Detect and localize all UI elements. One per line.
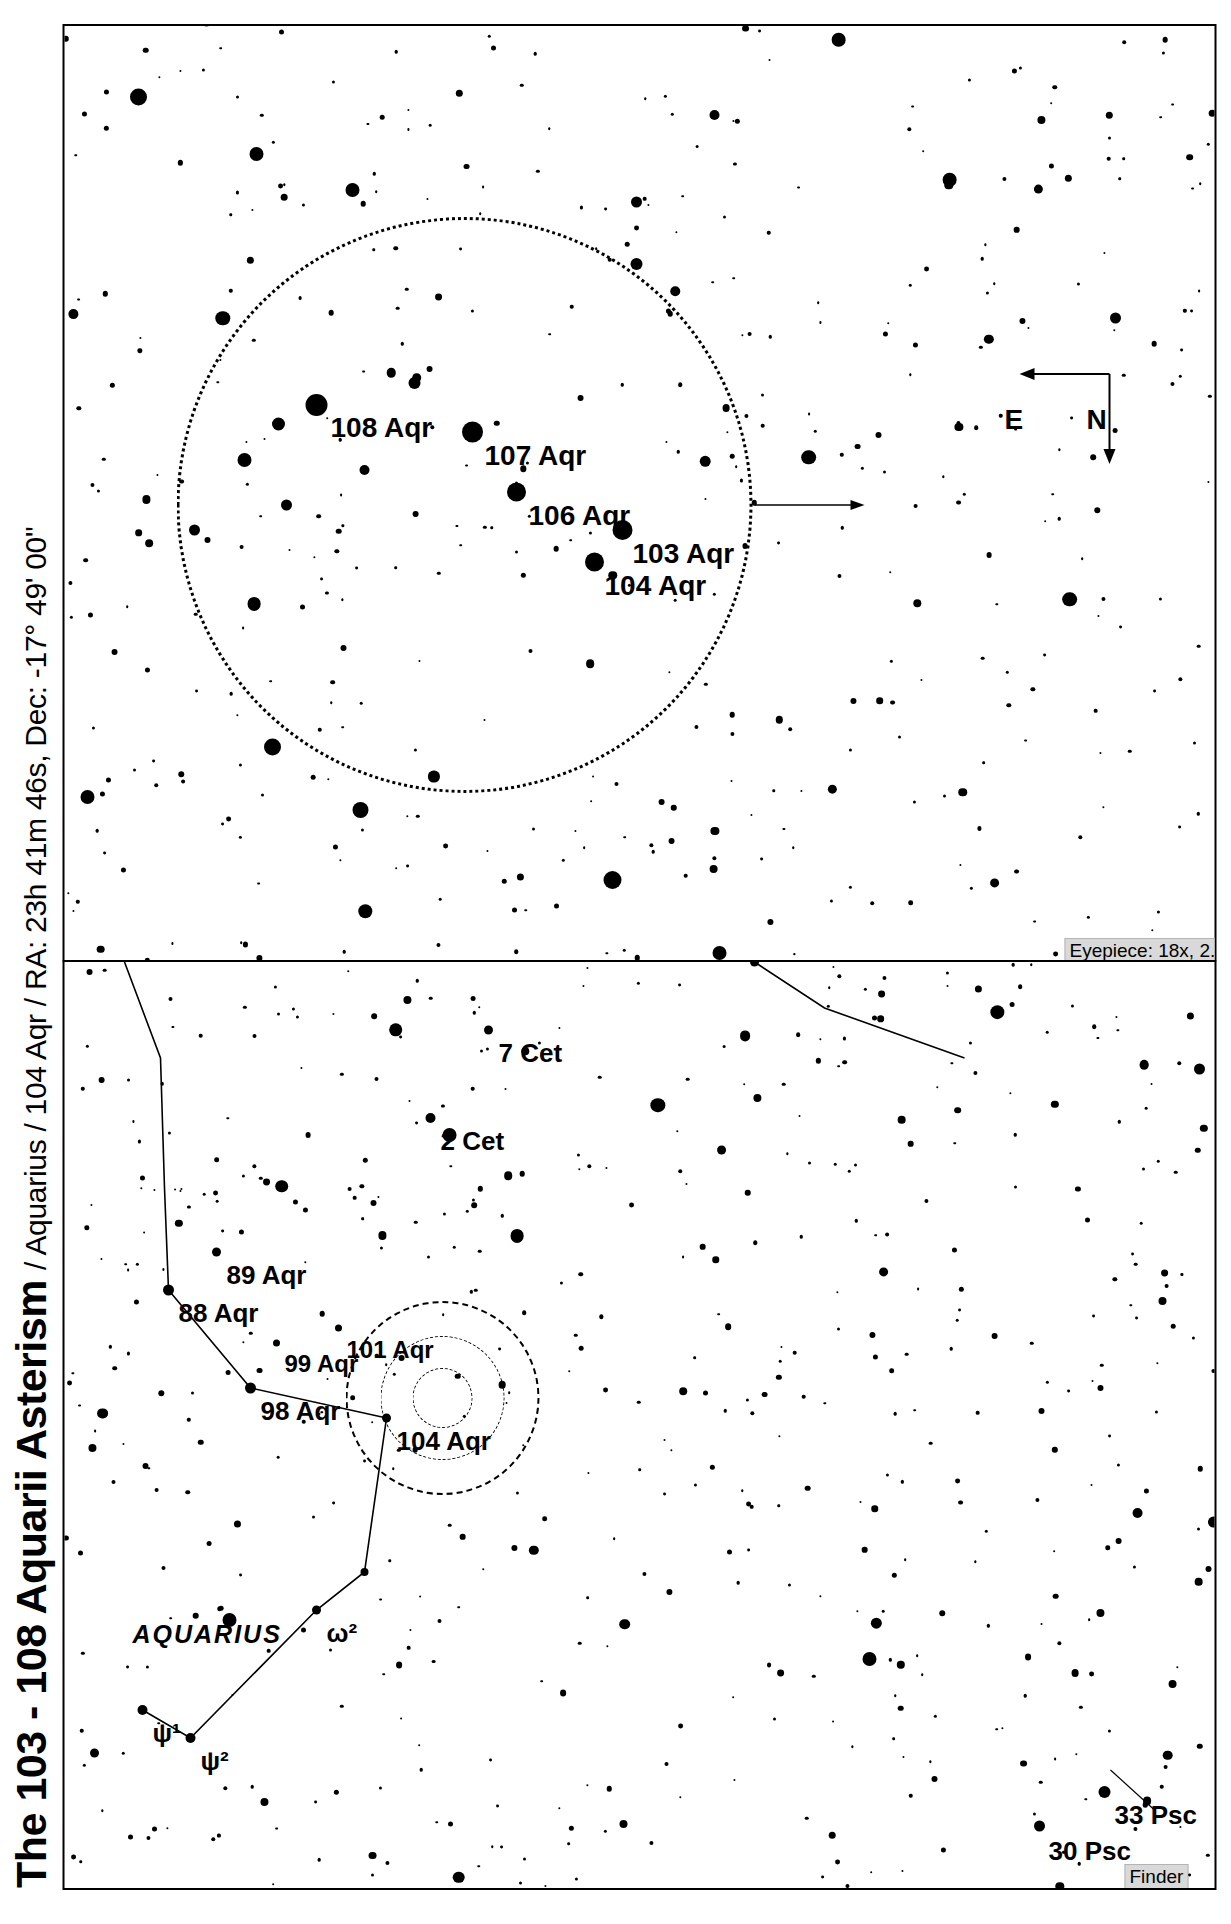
background-star: [179, 70, 181, 72]
background-star: [126, 1352, 129, 1355]
background-star: [1066, 1390, 1069, 1393]
background-star: [603, 1830, 606, 1833]
background-star: [1162, 52, 1165, 55]
background-star: [457, 1606, 460, 1609]
background-star: [985, 291, 988, 294]
background-star: [681, 195, 684, 198]
background-star: [723, 1409, 727, 1413]
background-star: [201, 68, 204, 71]
background-star: [642, 1572, 646, 1576]
background-star: [606, 1786, 612, 1792]
background-star: [1071, 1669, 1079, 1677]
background-star: [470, 996, 476, 1002]
background-star: [1038, 1408, 1044, 1414]
background-star: [63, 1536, 68, 1541]
background-star: [352, 1196, 356, 1200]
background-star: [931, 1776, 937, 1782]
background-star: [730, 732, 734, 736]
background-star: [776, 1375, 781, 1380]
background-star: [1112, 428, 1118, 434]
background-star: [853, 1164, 856, 1167]
background-star: [454, 1373, 460, 1379]
background-star: [109, 1345, 112, 1348]
background-star: [385, 1363, 388, 1366]
background-star: [920, 679, 922, 681]
background-star: [577, 1642, 581, 1646]
background-star: [1101, 806, 1103, 808]
background-star: [83, 558, 88, 563]
background-star: [1192, 742, 1195, 745]
background-star: [605, 1167, 607, 1169]
background-star: [908, 1794, 912, 1798]
background-star: [869, 1871, 872, 1874]
background-star: [1035, 1498, 1039, 1502]
background-star: [746, 1502, 751, 1507]
background-star: [100, 792, 105, 797]
background-star: [437, 1619, 441, 1623]
background-star: [222, 1613, 236, 1627]
background-star: [472, 1011, 475, 1014]
background-star: [452, 1872, 464, 1884]
background-star: [836, 1328, 839, 1331]
background-star: [74, 154, 77, 157]
background-star: [110, 382, 115, 387]
background-star: [515, 481, 518, 484]
background-star: [264, 739, 281, 756]
background-star: [874, 1234, 877, 1237]
background-star: [1086, 915, 1089, 918]
background-star: [247, 597, 261, 611]
background-star: [121, 868, 126, 873]
background-star: [493, 421, 499, 427]
background-star: [260, 1798, 268, 1806]
background-star: [782, 828, 784, 830]
background-star: [727, 1549, 732, 1554]
background-star: [851, 1745, 853, 1747]
background-star: [481, 1568, 484, 1571]
background-star: [1150, 1083, 1152, 1085]
background-star: [650, 1098, 664, 1112]
background-star: [521, 1310, 526, 1315]
finder-badge: Finder: [1124, 1864, 1188, 1890]
background-star: [434, 293, 441, 300]
background-star: [605, 952, 607, 954]
background-star: [185, 1490, 190, 1495]
background-star: [578, 1168, 580, 1170]
background-star: [1043, 520, 1046, 523]
background-star: [1105, 1546, 1110, 1551]
background-star: [951, 1248, 956, 1253]
background-star: [747, 1549, 750, 1552]
background-star: [673, 599, 677, 603]
star-107-aqr: [462, 422, 483, 443]
background-star: [275, 1180, 288, 1193]
background-star: [538, 1042, 541, 1045]
background-star: [1178, 374, 1182, 378]
background-star: [1118, 625, 1121, 628]
finder-chart-panel: 30 Psc 33 Psc ψ¹ ψ² ω² 104 Aqr 98 Aqr 99…: [62, 960, 1216, 1890]
background-star: [751, 500, 757, 506]
star-108-aqr: [305, 394, 327, 416]
star-104-aqr: [585, 553, 604, 572]
background-star: [142, 48, 148, 54]
background-star: [750, 814, 752, 816]
background-star: [735, 466, 738, 469]
background-star: [1193, 1064, 1204, 1075]
background-star: [142, 1231, 145, 1234]
background-star: [215, 311, 229, 325]
background-star: [366, 123, 368, 125]
label-104-aqr: 104 Aqr: [604, 570, 706, 602]
background-star: [958, 1308, 961, 1311]
background-star: [413, 749, 416, 752]
background-star: [102, 969, 106, 973]
background-star: [86, 969, 92, 975]
background-star: [340, 1072, 343, 1075]
background-star: [989, 879, 998, 888]
background-star: [1045, 1030, 1049, 1034]
background-star: [973, 1071, 977, 1075]
background-star: [168, 998, 172, 1002]
background-star: [1179, 1826, 1181, 1828]
background-star: [72, 910, 74, 912]
background-star: [104, 126, 109, 131]
background-star: [84, 1225, 88, 1229]
background-star: [723, 216, 726, 219]
label-psi-2: ψ²: [200, 1746, 228, 1777]
